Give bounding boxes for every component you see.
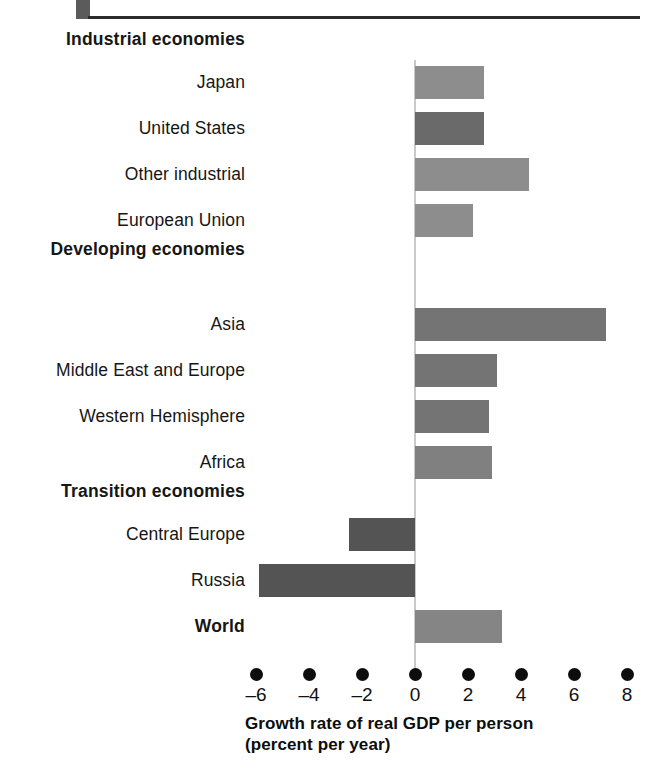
bar-chart-plot-area: Industrial economiesJapanUnited StatesOt… (0, 0, 650, 680)
x-axis-tick-dot (515, 668, 528, 681)
x-axis-tick-label: –2 (342, 684, 382, 706)
x-axis-tick-dot (621, 668, 634, 681)
caption-line-2: (percent per year) (245, 734, 645, 755)
bar-asia (415, 308, 606, 341)
row-label-european-union: European Union (117, 210, 245, 231)
x-axis-tick-label: 2 (448, 684, 488, 706)
row-label-africa: Africa (200, 452, 245, 473)
row-label-united-states: United States (139, 118, 245, 139)
x-axis-tick-label: 8 (607, 684, 647, 706)
row-label-western-hemisphere: Western Hemisphere (79, 406, 245, 427)
row-label-japan: Japan (197, 72, 245, 93)
bar-central-europe (349, 518, 415, 551)
bar-russia (259, 564, 415, 597)
row-label-industrial-economies: Industrial economies (66, 29, 245, 50)
x-axis-tick-label: –6 (236, 684, 276, 706)
row-label-world: World (195, 616, 245, 637)
row-label-transition-economies: Transition economies (61, 481, 245, 502)
bar-western-hemisphere (415, 400, 489, 433)
bar-united-states (415, 112, 484, 145)
x-axis-tick-label: 4 (501, 684, 541, 706)
x-axis-tick-dot (462, 668, 475, 681)
row-label-russia: Russia (191, 570, 245, 591)
x-axis-tick-dot (303, 668, 316, 681)
chart-page: Industrial economiesJapanUnited StatesOt… (0, 0, 650, 780)
bar-middle-east-and-europe (415, 354, 497, 387)
bar-africa (415, 446, 492, 479)
row-label-asia: Asia (211, 314, 245, 335)
caption-line-1: Growth rate of real GDP per person (245, 713, 645, 734)
x-axis-tick-dot (568, 668, 581, 681)
bar-world (415, 610, 502, 643)
axis-caption: Growth rate of real GDP per person (perc… (245, 713, 645, 756)
row-label-central-europe: Central Europe (126, 524, 245, 545)
x-axis-tick-label: –4 (289, 684, 329, 706)
bar-european-union (415, 204, 473, 237)
x-axis-tick-dot (409, 668, 422, 681)
x-axis-tick-dot (250, 668, 263, 681)
x-axis-tick-label: 6 (554, 684, 594, 706)
bar-other-industrial (415, 158, 529, 191)
row-label-other-industrial: Other industrial (125, 164, 245, 185)
row-label-middle-east-and-europe: Middle East and Europe (56, 360, 245, 381)
row-label-developing-economies: Developing economies (50, 239, 245, 260)
x-axis-tick-label: 0 (395, 684, 435, 706)
bar-japan (415, 66, 484, 99)
x-axis-tick-dot (356, 668, 369, 681)
